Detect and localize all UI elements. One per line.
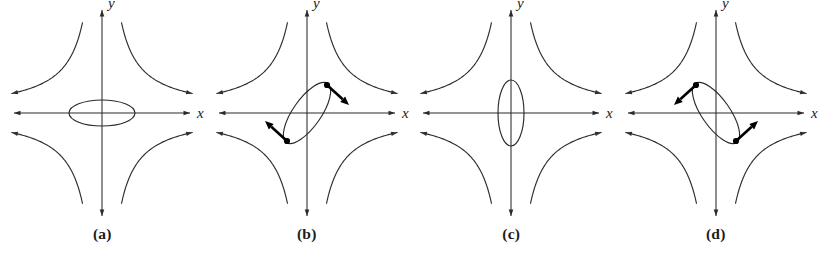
y-axis-arrowhead-top <box>509 10 514 17</box>
separatrix-curve-q2 <box>421 23 492 94</box>
panel-c: xy(c) <box>409 0 614 270</box>
panel-d-caption: (d) <box>706 226 726 242</box>
separatrix-curve-q3 <box>216 133 287 204</box>
y-axis-label: y <box>311 0 320 11</box>
x-axis-arrowhead-right <box>388 111 395 116</box>
vector-lower-left-point <box>283 138 289 144</box>
panel-a: xy(a) <box>0 0 205 270</box>
y-axis-label: y <box>720 0 729 11</box>
separatrix-curve-q2 <box>216 23 287 94</box>
panel-d-canvas: xy <box>614 0 818 222</box>
panel-b: xy(b) <box>205 0 410 270</box>
separatrix-curve-q4 <box>531 133 602 204</box>
separatrix-curve-q4 <box>326 133 397 204</box>
separatrix-curve-q1 <box>122 23 193 94</box>
x-axis-label: x <box>196 105 204 121</box>
vector-lower-right-point <box>732 138 738 144</box>
x-axis-arrowhead-left <box>423 111 430 116</box>
panel-c-caption: (c) <box>502 226 520 242</box>
panel-d: xy(d) <box>614 0 818 270</box>
figure-root: xy(a)xy(b)xy(c)xy(d) <box>0 0 818 270</box>
separatrix-curve-q4 <box>735 133 806 204</box>
separatrix-curve-q1 <box>531 23 602 94</box>
x-axis-arrowhead-left <box>628 111 635 116</box>
separatrix-curve-q3 <box>12 133 83 204</box>
separatrix-curve-q4 <box>122 133 193 204</box>
x-axis-label: x <box>401 105 409 121</box>
x-axis-arrowhead-left <box>14 111 21 116</box>
x-axis-arrowhead-right <box>184 111 191 116</box>
panel-row: xy(a)xy(b)xy(c)xy(d) <box>0 0 818 270</box>
panel-a-caption: (a) <box>93 226 112 242</box>
y-axis-label: y <box>515 0 524 11</box>
x-axis-arrowhead-right <box>797 111 804 116</box>
panel-b-caption: (b) <box>297 226 317 242</box>
x-axis-label: x <box>810 105 818 121</box>
y-axis-arrowhead-bottom <box>509 210 514 217</box>
y-axis-arrowhead-top <box>304 10 309 17</box>
y-axis-arrowhead-bottom <box>713 210 718 217</box>
separatrix-curve-q3 <box>625 133 696 204</box>
x-axis-label: x <box>605 105 613 121</box>
x-axis-arrowhead-right <box>593 111 600 116</box>
y-axis-arrowhead-bottom <box>100 210 105 217</box>
panel-a-canvas: xy <box>0 0 205 222</box>
vector-upper-left-point <box>692 82 698 88</box>
x-axis-arrowhead-left <box>219 111 226 116</box>
y-axis-arrowhead-bottom <box>304 210 309 217</box>
separatrix-curve-q2 <box>625 23 696 94</box>
panel-b-canvas: xy <box>205 0 410 222</box>
separatrix-curve-q2 <box>12 23 83 94</box>
vector-upper-right-point <box>323 82 329 88</box>
panel-c-canvas: xy <box>409 0 614 222</box>
separatrix-curve-q1 <box>326 23 397 94</box>
y-axis-arrowhead-top <box>100 10 105 17</box>
separatrix-curve-q1 <box>735 23 806 94</box>
y-axis-arrowhead-top <box>713 10 718 17</box>
separatrix-curve-q3 <box>421 133 492 204</box>
y-axis-label: y <box>106 0 115 11</box>
